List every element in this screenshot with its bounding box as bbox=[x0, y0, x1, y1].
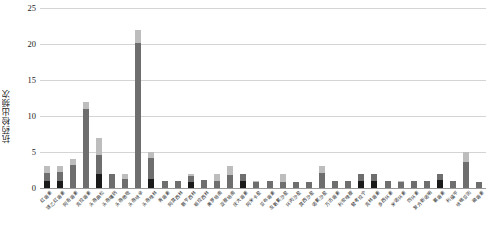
bar-column bbox=[358, 174, 364, 188]
x-axis-tick-labels: 红霉素琥乙红霉素阿奇霉素克拉霉素头孢曲松头孢噻肟头孢他啶头孢呋辛头孢唑林青霉素阿… bbox=[40, 190, 486, 235]
bar-column bbox=[148, 152, 154, 188]
bar-segment bbox=[109, 174, 115, 188]
bar-column bbox=[280, 174, 286, 188]
bar-column bbox=[109, 174, 115, 188]
bar-segment bbox=[437, 180, 443, 188]
bar-segment bbox=[175, 181, 181, 188]
bar-segment bbox=[57, 172, 63, 181]
bar-segment bbox=[214, 181, 220, 188]
bar-segment bbox=[385, 181, 391, 188]
bar-segment bbox=[135, 43, 141, 188]
bar-segment bbox=[96, 174, 102, 188]
bar-column bbox=[411, 181, 417, 188]
bar-segment bbox=[201, 180, 207, 188]
bar-segment bbox=[83, 102, 89, 109]
x-axis-line bbox=[40, 188, 486, 189]
bar-segment bbox=[463, 152, 469, 162]
plot-area bbox=[40, 8, 486, 189]
bar-segment bbox=[148, 179, 154, 188]
bar-column bbox=[175, 181, 181, 188]
y-tick-label: 20 bbox=[20, 40, 36, 49]
bar-segment bbox=[240, 181, 246, 188]
bar-segment bbox=[135, 30, 141, 44]
bar-segment bbox=[96, 138, 102, 155]
bar-column bbox=[385, 181, 391, 188]
bar-segment bbox=[214, 174, 220, 181]
bar-segment bbox=[411, 181, 417, 188]
bar-column bbox=[57, 166, 63, 188]
bar-column bbox=[44, 166, 50, 188]
bar-segment bbox=[83, 109, 89, 188]
bar-column bbox=[332, 181, 338, 188]
bar-segment bbox=[267, 181, 273, 188]
bar-column bbox=[96, 138, 102, 188]
bars-layer bbox=[40, 8, 486, 189]
bar-segment bbox=[227, 166, 233, 175]
bar-column bbox=[122, 174, 128, 188]
bar-segment bbox=[122, 179, 128, 188]
bar-segment bbox=[424, 181, 430, 188]
bar-segment bbox=[96, 155, 102, 174]
bar-segment bbox=[358, 181, 364, 188]
bar-column bbox=[188, 174, 194, 188]
bar-column bbox=[227, 166, 233, 188]
bar-column bbox=[201, 180, 207, 188]
bar-segment bbox=[227, 175, 233, 188]
bar-column bbox=[135, 30, 141, 188]
bar-column bbox=[70, 159, 76, 188]
bar-column bbox=[371, 174, 377, 188]
bar-column bbox=[437, 174, 443, 188]
bar-segment bbox=[44, 181, 50, 188]
bar-segment bbox=[450, 181, 456, 188]
y-axis-tick-labels: 0510152025 bbox=[18, 0, 36, 190]
y-axis-title: 抗药检出频次 bbox=[0, 58, 16, 174]
bar-segment bbox=[162, 181, 168, 188]
bar-column bbox=[319, 166, 325, 188]
chart-container: 抗药检出频次 0510152025 红霉素琥乙红霉素阿奇霉素克拉霉素头孢曲松头孢… bbox=[0, 0, 492, 235]
bar-segment bbox=[70, 165, 76, 188]
bar-column bbox=[83, 102, 89, 188]
bar-column bbox=[424, 181, 430, 188]
bar-segment bbox=[371, 174, 377, 181]
bar-segment bbox=[44, 173, 50, 181]
bar-column bbox=[398, 181, 404, 188]
bar-segment bbox=[57, 181, 63, 188]
bar-column bbox=[463, 152, 469, 188]
bar-column bbox=[345, 181, 351, 188]
bar-segment bbox=[345, 181, 351, 188]
bar-segment bbox=[148, 158, 154, 180]
x-tick-label: 磷霉素 bbox=[472, 190, 486, 204]
y-tick-label: 10 bbox=[20, 112, 36, 121]
bar-column bbox=[450, 181, 456, 188]
x-tick-label: 氯霉素 bbox=[433, 190, 447, 204]
bar-segment bbox=[371, 181, 377, 188]
bar-segment bbox=[240, 174, 246, 181]
y-tick-label: 5 bbox=[20, 148, 36, 157]
bar-segment bbox=[319, 173, 325, 188]
bar-column bbox=[267, 181, 273, 188]
y-tick-label: 0 bbox=[20, 184, 36, 193]
bar-segment bbox=[463, 162, 469, 188]
y-tick-label: 25 bbox=[20, 4, 36, 13]
bar-column bbox=[240, 174, 246, 188]
y-tick-label: 15 bbox=[20, 76, 36, 85]
bar-column bbox=[162, 181, 168, 188]
bar-column bbox=[214, 174, 220, 188]
bar-segment bbox=[332, 181, 338, 188]
bar-column bbox=[253, 181, 259, 188]
bar-segment bbox=[280, 174, 286, 182]
